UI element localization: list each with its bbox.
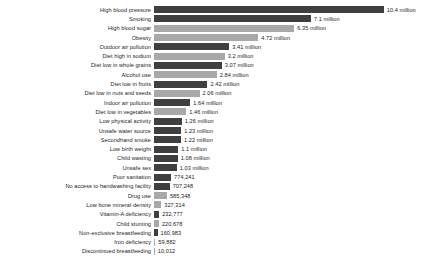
bar-track: 1.26 million [154,117,430,126]
category-label: High blood sugar [0,25,154,31]
bar-track: 774,241 [154,172,430,181]
bar-track: 7.1 million [154,14,430,23]
bar-segment [154,192,167,199]
bar-row: Outdoor air pollution3.41 million [0,42,430,51]
category-label: High blood pressure [0,7,154,13]
bar-segment [154,108,186,115]
bar-segment [154,164,177,171]
bar-row: High blood pressure10.4 million [0,5,430,14]
value-label: 220,678 [159,221,183,227]
value-label: 10.4 million [384,7,416,13]
bar-track: 10.4 million [154,5,430,14]
category-label: Child wasting [0,155,154,161]
category-label: Low bone mineral density [0,202,154,208]
category-label: Diet low in nuts and seeds [0,90,154,96]
category-label: Child stunting [0,221,154,227]
bar-segment [154,99,190,106]
value-label: 3.07 million [222,62,254,68]
bar-track: 10,012 [154,247,430,256]
value-label: 6.35 million [294,25,326,31]
bar-row: Secondhand smoke1.22 million [0,135,430,144]
value-label: 1.22 million [181,137,213,143]
bar-segment [154,53,225,60]
bar-row: No access to handwashing facility707,248 [0,182,430,191]
value-label: 774,241 [171,174,195,180]
bar-segment [154,15,311,22]
category-label: No access to handwashing facility [0,183,154,189]
category-label: Alcohol use [0,72,154,78]
bar-segment [154,25,294,32]
bar-row: Obesity4.72 million [0,33,430,42]
bar-row: Diet low in fruits2.42 million [0,79,430,88]
value-label: 2.42 million [207,81,239,87]
bar-segment [154,71,217,78]
value-label: 585,348 [167,193,191,199]
value-label: 59,882 [155,239,175,245]
value-label: 10,012 [155,248,175,254]
category-label: Vitamin-A deficiency [0,211,154,217]
bar-row: Alcohol use2.84 million [0,70,430,79]
bar-row: Indoor air pollution1.64 million [0,98,430,107]
bar-track: 2.06 million [154,89,430,98]
category-label: Poor sanitation [0,174,154,180]
category-label: Iron deficiency [0,239,154,245]
bar-row: Discontinued breastfeeding10,012 [0,247,430,256]
category-label: Secondhand smoke [0,137,154,143]
bar-segment [154,43,229,50]
bar-row: Poor sanitation774,241 [0,172,430,181]
bar-segment [154,6,384,13]
value-label: 1.26 million [182,118,214,124]
bar-track: 160,983 [154,228,430,237]
value-label: 327,314 [161,202,185,208]
bar-row: Low physical activity1.26 million [0,117,430,126]
bar-row: Diet low in nuts and seeds2.06 million [0,89,430,98]
category-label: Low physical activity [0,118,154,124]
value-label: 1.03 million [177,165,209,171]
bar-row: Child stunting220,678 [0,219,430,228]
bar-segment [154,136,181,143]
value-label: 707,248 [170,183,194,189]
bar-row: Unsafe sex1.03 million [0,163,430,172]
category-label: Diet low in fruits [0,81,154,87]
category-label: Unsafe water source [0,128,154,134]
value-label: 2.84 million [217,72,249,78]
bar-track: 3.41 million [154,42,430,51]
category-label: Non-exclusive breastfeeding [0,230,154,236]
bar-track: 1.03 million [154,163,430,172]
bar-row: Non-exclusive breastfeeding160,983 [0,228,430,237]
bar-track: 327,314 [154,200,430,209]
bar-segment [154,183,170,190]
bar-segment [154,81,207,88]
bar-track: 4.72 million [154,33,430,42]
bar-segment [154,201,161,208]
bar-row: Drug use585,348 [0,191,430,200]
bar-segment [154,34,258,41]
value-label: 3.41 million [229,44,261,50]
bar-track: 3.07 million [154,61,430,70]
bar-track: 585,348 [154,191,430,200]
bar-row: Unsafe water source1.23 million [0,126,430,135]
value-label: 4.72 million [258,35,290,41]
bar-segment [154,118,182,125]
bar-row: Vitamin-A deficiency232,777 [0,210,430,219]
category-label: Obesity [0,35,154,41]
bar-segment [154,146,178,153]
value-label: 1.1 million [178,146,207,152]
bar-track: 707,248 [154,182,430,191]
value-label: 1.46 million [186,109,218,115]
bar-track: 232,777 [154,210,430,219]
value-label: 7.1 million [311,16,340,22]
bar-track: 220,678 [154,219,430,228]
value-label: 1.08 million [178,155,210,161]
bar-track: 59,882 [154,238,430,247]
value-label: 232,777 [159,211,183,217]
bar-track: 2.84 million [154,70,430,79]
bar-row: Child wasting1.08 million [0,154,430,163]
bar-row: High blood sugar6.35 million [0,24,430,33]
bar-track: 1.64 million [154,98,430,107]
category-label: Unsafe sex [0,165,154,171]
bar-track: 2.42 million [154,79,430,88]
value-label: 3.2 million [225,53,254,59]
category-label: Outdoor air pollution [0,44,154,50]
category-label: Drug use [0,193,154,199]
